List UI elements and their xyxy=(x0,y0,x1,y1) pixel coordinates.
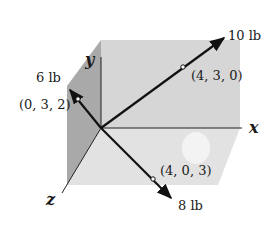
y-axis-label: y xyxy=(84,50,96,69)
back-face-xy-plane xyxy=(101,40,240,128)
z-axis-label: z xyxy=(45,190,56,209)
point-0-3-2-marker xyxy=(76,97,80,101)
force-8lb-label: 8 lb xyxy=(178,198,203,213)
force-6lb-label: 6 lb xyxy=(36,70,61,85)
point-4-0-3-label: (4, 0, 3) xyxy=(160,163,212,178)
point-4-3-0-marker xyxy=(181,65,185,69)
point-4-3-0-label: (4, 3, 0) xyxy=(191,68,243,83)
point-4-0-3-marker xyxy=(151,177,155,181)
force-10lb-label: 10 lb xyxy=(228,28,261,43)
x-axis-label: x xyxy=(248,118,259,137)
highlight-patch xyxy=(182,132,210,164)
force-diagram: y x z 10 lb (4, 3, 0) 6 lb (0, 3, 2) 8 l… xyxy=(0,0,279,227)
point-0-3-2-label: (0, 3, 2) xyxy=(19,97,71,112)
